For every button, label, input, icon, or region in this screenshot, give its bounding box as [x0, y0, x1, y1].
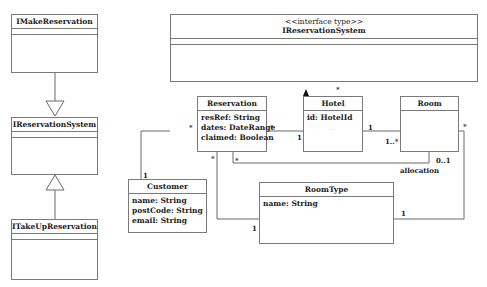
attribute-list: resRef: String dates: DateRange claimed:…: [198, 111, 266, 145]
class-name: Reservation: [198, 97, 266, 111]
attribute: name: String: [132, 196, 203, 206]
class-imakereservation[interactable]: IMakeReservation: [11, 14, 98, 73]
attribute: dates: DateRange: [201, 123, 263, 133]
uml-class-diagram: IMakeReservation IReservationSystem ITak…: [0, 0, 487, 287]
attribute-compartment: [12, 132, 97, 138]
class-reservation[interactable]: Reservation resRef: String dates: DateRa…: [197, 96, 267, 152]
class-customer[interactable]: Customer name: String postCode: String e…: [128, 179, 207, 233]
class-name: Customer: [129, 180, 206, 194]
class-name: Room: [401, 97, 458, 111]
multiplicity-label: *: [211, 154, 215, 163]
class-itakeupreservation[interactable]: ITakeUpReservation: [11, 219, 98, 280]
stereotype-label: <<interface type>>: [171, 17, 477, 26]
multiplicity-label: *: [463, 122, 467, 131]
attribute-compartment: [171, 39, 477, 45]
attribute-compartment: [12, 234, 97, 240]
class-ireservationsystem[interactable]: <<interface type>> IReservationSystem: [170, 14, 478, 82]
multiplicity-label: 1: [368, 123, 373, 132]
attribute-list: name: String: [260, 197, 393, 211]
class-roomtype[interactable]: RoomType name: String: [259, 182, 394, 244]
multiplicity-label: 1..*: [385, 137, 398, 146]
attribute: postCode: String: [132, 206, 203, 216]
class-name: Hotel: [304, 97, 362, 111]
multiplicity-label: 1: [143, 171, 148, 180]
attribute-list: id: HotelId .: [304, 111, 362, 135]
multiplicity-label: 1: [401, 209, 406, 218]
multiplicity-label: *: [189, 123, 193, 132]
class-hotel[interactable]: Hotel id: HotelId .: [303, 96, 363, 152]
class-title: IReservationSystem: [282, 26, 366, 35]
multiplicity-label: 1: [252, 224, 257, 233]
attribute: email: String: [132, 216, 203, 226]
multiplicity-label: 0..1: [436, 156, 451, 165]
class-name: IMakeReservation: [12, 15, 97, 29]
class-name: ITakeUpReservation: [12, 220, 97, 234]
association-name-allocation: allocation: [400, 166, 439, 175]
attribute: id: HotelId: [307, 113, 359, 123]
attribute: name: String: [263, 199, 390, 209]
attribute: claimed: Boolean: [201, 133, 263, 143]
multiplicity-label: *: [235, 156, 239, 165]
multiplicity-label: *: [270, 123, 274, 132]
class-name: IReservationSystem: [12, 118, 97, 132]
multiplicity-label: 1: [297, 133, 302, 142]
attribute: .: [307, 123, 359, 133]
attribute-compartment: [12, 29, 97, 35]
attribute: resRef: String: [201, 113, 263, 123]
class-name: <<interface type>> IReservationSystem: [171, 15, 477, 39]
class-name: RoomType: [260, 183, 393, 197]
class-ireservationsystem-small[interactable]: IReservationSystem: [11, 117, 98, 175]
class-room[interactable]: Room: [400, 96, 459, 152]
multiplicity-label: *: [336, 85, 340, 94]
attribute-list: name: String postCode: String email: Str…: [129, 194, 206, 228]
